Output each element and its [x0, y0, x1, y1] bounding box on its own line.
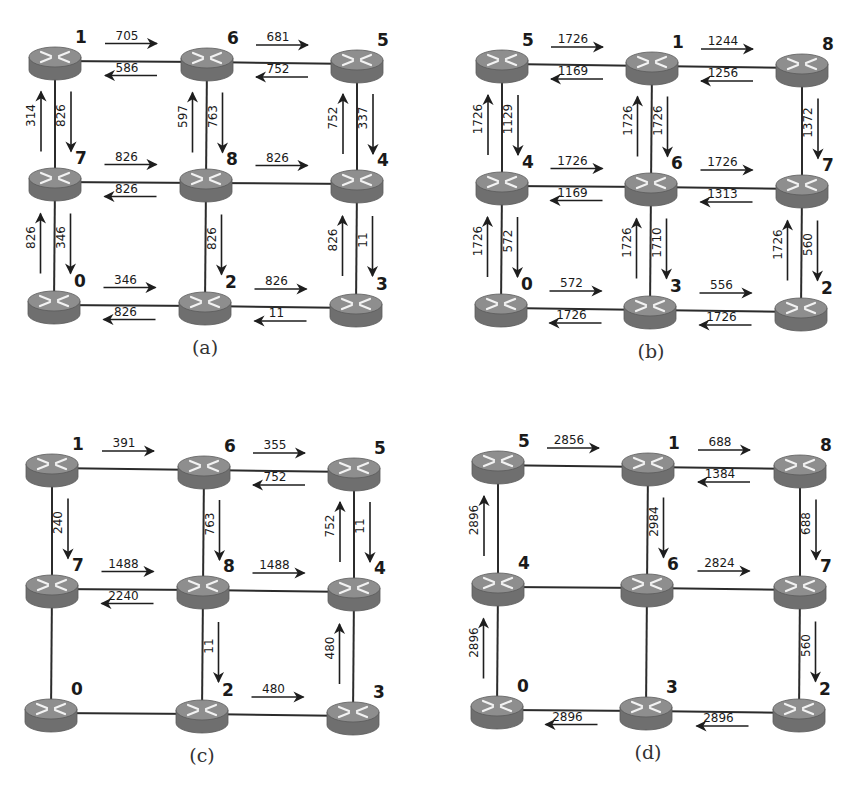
- router-node: 3: [327, 682, 385, 735]
- flow-arrow: 1169: [551, 64, 603, 79]
- flow-value: 1726: [706, 310, 737, 324]
- flow-value: 2240: [108, 589, 139, 603]
- flow-arrow: 2896: [467, 496, 484, 556]
- router-node: 3: [330, 274, 388, 327]
- flow-arrow: 2240: [102, 589, 154, 604]
- router-node: 7: [774, 556, 832, 609]
- flow-value: 355: [264, 438, 287, 452]
- flow-value: 826: [265, 274, 288, 288]
- flow-value: 763: [203, 513, 217, 536]
- network-flow-figure: 7055866817528268268263468268261131482682…: [0, 0, 854, 792]
- flow-value: 1372: [801, 107, 815, 138]
- router-node: 2: [176, 680, 234, 733]
- flow-value: 1129: [501, 104, 515, 135]
- flow-arrow: 1726: [471, 217, 488, 277]
- flow-arrow: 1726: [651, 97, 668, 157]
- node-label: 5: [518, 431, 530, 451]
- flow-arrow: 2984: [647, 498, 664, 558]
- flow-arrow: 346: [54, 214, 71, 274]
- panel-caption: (a): [192, 336, 218, 358]
- flow-arrow: 556: [700, 278, 752, 293]
- node-label: 4: [377, 150, 389, 170]
- flow-arrow: 1726: [700, 310, 752, 325]
- router-node: 4: [472, 553, 530, 606]
- flow-value: 2856: [554, 433, 585, 447]
- flow-arrow: 681: [256, 30, 308, 45]
- router-node: 6: [178, 436, 236, 489]
- flow-value: 2984: [647, 506, 661, 537]
- flow-arrow: 11: [353, 502, 370, 562]
- node-label: 4: [518, 553, 530, 573]
- flow-value: 346: [54, 226, 68, 249]
- flow-value: 1313: [707, 187, 738, 201]
- node-label: 4: [522, 152, 534, 172]
- router-node: 2: [179, 272, 237, 325]
- router-node: 4: [476, 152, 534, 205]
- flow-value: 480: [323, 637, 337, 660]
- flow-arrow: 346: [104, 273, 156, 288]
- flow-value: 705: [116, 29, 139, 43]
- node-label: 3: [666, 677, 678, 697]
- node-label: 8: [226, 149, 238, 169]
- flow-value: 391: [113, 436, 136, 450]
- panel-caption: (c): [189, 744, 214, 766]
- router-node: 5: [331, 30, 389, 83]
- flow-arrow: 597: [176, 93, 193, 153]
- flow-arrow: 752: [256, 62, 308, 77]
- node-label: 5: [522, 30, 534, 50]
- flow-arrow: 337: [356, 94, 373, 154]
- flow-value: 1244: [708, 34, 739, 48]
- flow-value: 826: [115, 182, 138, 196]
- flow-arrow: 2896: [546, 710, 598, 725]
- flow-value: 1256: [708, 66, 739, 80]
- router-node: 4: [331, 150, 389, 203]
- router-node: 8: [177, 556, 235, 609]
- flow-arrow: 586: [105, 61, 157, 76]
- panel-a: 7055866817528268268263468268261131482682…: [24, 27, 390, 358]
- node-label: 7: [75, 148, 87, 168]
- flow-arrow: 752: [253, 470, 305, 485]
- flow-arrow: 11: [202, 622, 219, 682]
- flow-value: 560: [799, 634, 813, 657]
- flow-arrow: 1372: [801, 99, 818, 159]
- router-node: 6: [625, 153, 683, 206]
- router-node: 6: [621, 554, 679, 607]
- flow-value: 752: [264, 470, 287, 484]
- flow-arrow: 2856: [547, 433, 599, 448]
- flow-value: 1726: [557, 154, 588, 168]
- flow-value: 572: [501, 230, 515, 253]
- flow-value: 11: [269, 306, 284, 320]
- flow-value: 2896: [552, 710, 583, 724]
- flow-value: 11: [202, 638, 216, 653]
- router-node: 3: [620, 677, 678, 730]
- router-node: 5: [472, 431, 530, 484]
- flow-value: 2896: [467, 627, 481, 658]
- flow-value: 826: [266, 151, 289, 165]
- flow-arrow: 826: [105, 150, 157, 165]
- flow-value: 346: [114, 273, 137, 287]
- router-node: 7: [26, 555, 84, 608]
- router-node: 0: [471, 676, 529, 729]
- flow-arrow: 688: [799, 500, 816, 560]
- flow-value: 826: [24, 226, 38, 249]
- panel-b: 1726116912441256172611691726131357217265…: [471, 30, 834, 362]
- router-node: 2: [775, 278, 833, 331]
- flow-value: 1726: [620, 227, 634, 258]
- node-label: 8: [820, 435, 832, 455]
- router-node: 7: [29, 148, 87, 201]
- node-label: 3: [670, 276, 682, 296]
- node-label: 6: [227, 28, 239, 48]
- flow-value: 1726: [556, 308, 587, 322]
- flow-arrow: 1488: [102, 557, 154, 572]
- flow-value: 1488: [259, 558, 290, 572]
- router-node: 8: [774, 435, 832, 488]
- panel-caption: (b): [638, 340, 665, 362]
- flow-arrow: 1710: [650, 219, 667, 279]
- flow-value: 1726: [771, 229, 785, 260]
- flow-value: 1169: [558, 64, 589, 78]
- flow-arrow: 11: [356, 216, 373, 276]
- router-node: 8: [776, 34, 834, 87]
- flow-value: 11: [356, 232, 370, 247]
- flow-value: 1384: [705, 467, 736, 481]
- flow-value: 752: [323, 515, 337, 538]
